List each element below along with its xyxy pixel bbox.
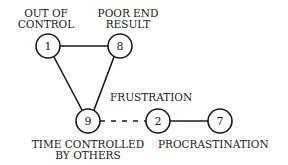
label-procrastination: PROCRASTINATION (158, 138, 269, 150)
label-result: RESULT (106, 18, 151, 30)
svg-text:8: 8 (117, 40, 124, 53)
node-1: 1 (36, 34, 60, 58)
label-control: CONTROL (18, 18, 74, 30)
svg-text:2: 2 (155, 115, 162, 128)
node-7: 7 (208, 109, 232, 133)
svg-text:1: 1 (45, 40, 52, 53)
svg-text:7: 7 (217, 115, 224, 128)
edge-1-9 (54, 57, 82, 110)
network-diagram: 1 8 9 2 7 OUT OF CONTROL POOR END RESULT… (0, 0, 288, 165)
svg-text:9: 9 (85, 115, 92, 128)
label-by-others: BY OTHERS (55, 149, 120, 161)
node-9: 9 (76, 109, 100, 133)
node-8: 8 (108, 34, 132, 58)
label-frustration: FRUSTRATION (110, 91, 192, 103)
node-2: 2 (146, 109, 170, 133)
